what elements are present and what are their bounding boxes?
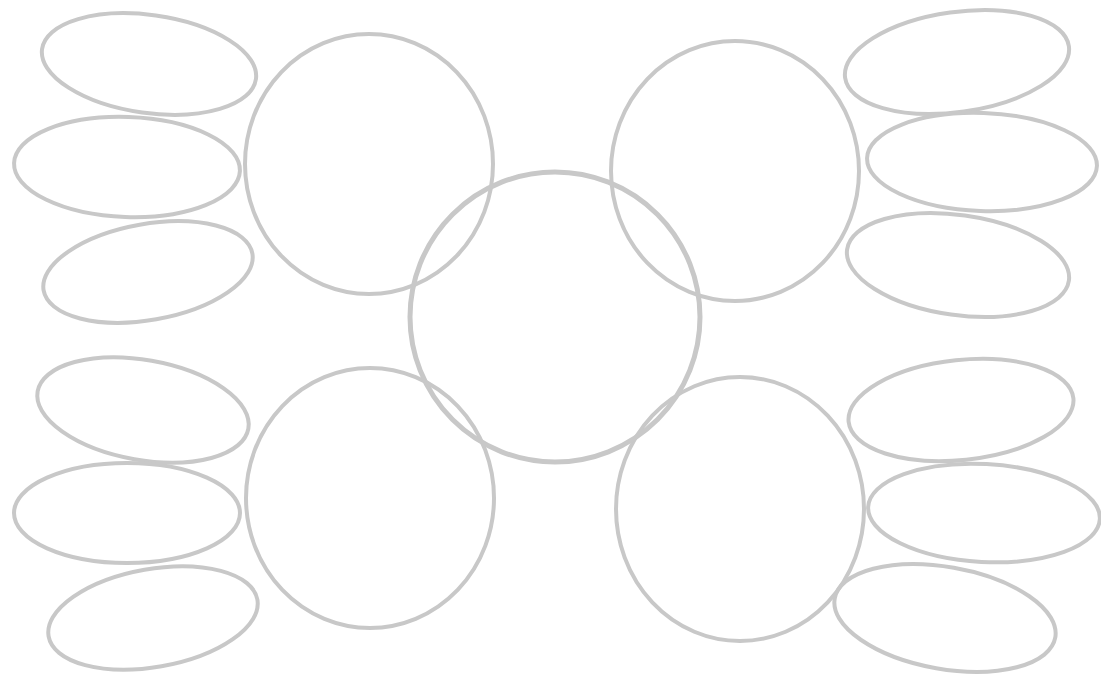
- leaf-ellipse-top-right-3-outline: [840, 200, 1076, 330]
- leaf-ellipse-top-right-3: [840, 200, 1076, 330]
- satellite-circle-top-left: [245, 34, 493, 294]
- leaf-ellipse-top-left-2-outline: [12, 113, 241, 221]
- leaf-ellipse-bottom-right-1-outline: [843, 348, 1078, 471]
- satellite-circle-bottom-right: [616, 377, 864, 641]
- leaf-ellipse-bottom-right-2: [866, 458, 1101, 568]
- diagram-canvas: [0, 0, 1101, 686]
- leaf-ellipse-top-left-1: [35, 0, 263, 127]
- leaf-ellipse-top-left-1-outline: [35, 0, 263, 127]
- leaf-ellipse-bottom-left-3: [40, 551, 266, 684]
- leaf-ellipse-bottom-left-1: [29, 342, 257, 478]
- central-hub-circle-outline: [410, 172, 700, 462]
- satellite-circle-bottom-right-outline: [616, 377, 864, 641]
- leaf-ellipse-bottom-left-2: [14, 463, 240, 563]
- leaf-ellipse-bottom-left-2-outline: [14, 463, 240, 563]
- satellite-circle-bottom-left: [246, 368, 494, 628]
- leaf-ellipse-top-right-2: [865, 109, 1098, 215]
- satellite-circle-top-right-outline: [611, 41, 859, 301]
- leaf-ellipse-bottom-right-1: [843, 348, 1078, 471]
- leaf-ellipse-top-right-1-outline: [838, 0, 1076, 127]
- leaf-ellipse-bottom-left-3-outline: [40, 551, 266, 684]
- leaf-ellipse-bottom-right-3: [826, 548, 1064, 686]
- leaf-ellipse-bottom-left-1-outline: [29, 342, 257, 478]
- leaf-ellipse-bottom-right-3-outline: [826, 548, 1064, 686]
- leaf-ellipse-bottom-right-2-outline: [866, 458, 1101, 568]
- satellite-circle-top-left-outline: [245, 34, 493, 294]
- graphic-organizer-diagram: [0, 0, 1101, 686]
- satellite-circle-top-right: [611, 41, 859, 301]
- satellite-circle-bottom-left-outline: [246, 368, 494, 628]
- leaf-ellipse-top-right-1: [838, 0, 1076, 127]
- leaf-ellipse-top-left-3: [35, 206, 260, 337]
- leaf-ellipse-top-left-3-outline: [35, 206, 260, 337]
- leaf-ellipse-top-left-2: [12, 113, 241, 221]
- central-hub-circle: [410, 172, 700, 462]
- leaf-ellipse-top-right-2-outline: [865, 109, 1098, 215]
